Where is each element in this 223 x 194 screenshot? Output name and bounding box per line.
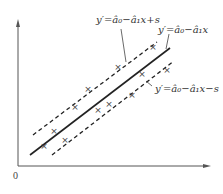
data-point-marker: × <box>163 65 171 75</box>
data-point-marker: × <box>149 42 157 52</box>
data-point-marker: × <box>128 90 136 100</box>
lower-label-leader <box>146 81 152 86</box>
data-point-marker: × <box>71 102 79 112</box>
upper-bound-line <box>33 42 157 135</box>
data-point-marker: × <box>94 105 102 115</box>
y-axis-arrow-icon <box>16 19 20 27</box>
origin-label: 0 <box>13 171 18 181</box>
data-point-marker: × <box>105 99 113 109</box>
upper-label-leader <box>121 29 126 62</box>
regression-diagram: × × × × × × × × × × × × y′=â₀−â₁x+s y′=â… <box>0 0 223 194</box>
regression-line <box>30 48 170 155</box>
data-point-marker: × <box>114 62 122 72</box>
x-axis-arrow-icon <box>203 164 211 168</box>
data-point-marker: × <box>50 126 58 136</box>
data-point-marker: × <box>138 69 146 79</box>
data-point-marker: × <box>61 135 69 145</box>
center-label-leader <box>166 34 169 49</box>
lower-bound-label: y′=â₀−â₁x−s <box>155 84 219 94</box>
data-point-marker: × <box>84 84 92 94</box>
regression-label: y′=â₀−â₁x <box>158 25 208 35</box>
upper-bound-label: y′=â₀−â₁x+s <box>96 15 160 25</box>
data-point-marker: × <box>40 141 48 151</box>
